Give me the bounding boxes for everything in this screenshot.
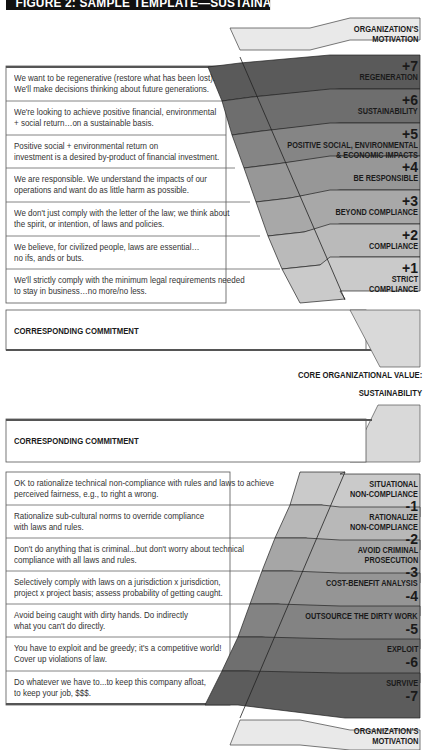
commitment-row-text: Avoid being caught with dirty hands. Do … [14,610,188,631]
commitment-row-text: We are responsible. We understand the im… [14,174,207,195]
bottom-commitment-label: CORRESPONDING COMMITMENT [14,436,139,446]
motivation-level: +3BEYOND COMPLIANCE [322,194,418,218]
level-number: -4 [311,589,418,603]
motivation-level: +7REGENERATION [350,59,418,83]
level-name: NON-COMPLIANCE [350,490,418,500]
level-number: +1 [361,261,418,275]
commitment-row-text: Positive social + environmental return o… [14,141,219,162]
level-number: -7 [381,689,418,703]
core-value: SUSTAINABILITY [358,388,422,398]
level-name: NON-COMPLIANCE [350,523,418,533]
level-name: COST-BENEFIT ANALYSIS [326,579,418,589]
commitment-row-text: We're looking to achieve positive financ… [14,107,216,128]
motivation-level: SURVIVE-7 [381,679,418,703]
commitment-row-text: OK to rationalize technical non-complian… [14,478,274,499]
level-number: -6 [382,655,418,669]
level-number: +6 [348,93,418,107]
level-number: -2 [339,532,418,546]
level-name: COMPLIANCE [369,285,418,295]
commitment-row-text: We want to be regenerative (restore what… [14,73,215,94]
motivation-level: RATIONALIZENON-COMPLIANCE-2 [339,513,418,546]
commitment-row-text: We'll strictly comply with the minimum l… [14,275,245,296]
motivation-level: +1STRICTCOMPLIANCE [361,261,418,294]
motivation-header: ORGANIZATION'S MOTIVATION [353,24,418,44]
level-name: PROSECUTION [358,556,418,566]
motivation-level: AVOID CRIMINALPROSECUTION-3 [348,546,418,579]
core-value-heading: CORE ORGANIZATIONAL VALUE: [298,370,422,380]
level-number: +5 [266,127,418,141]
top-commitment-label: CORRESPONDING COMMITMENT [14,326,139,336]
commitment-row-text: Selectively comply with laws on a jurisd… [14,577,223,598]
motivation-level: COST-BENEFIT ANALYSIS-4 [311,579,418,603]
level-number: +7 [350,59,418,73]
level-number: -1 [339,499,418,513]
level-name: COMPLIANCE [369,242,418,252]
level-name: BE RESPONSIBLE [353,174,418,184]
commitment-row-text: We don't just comply with the letter of … [14,208,230,229]
level-number: +3 [322,194,418,208]
level-name: & ECONOMIC IMPACTS [287,151,418,161]
level-name: EXPLOIT [387,645,418,655]
commitment-row-text: We believe, for civilized people, laws a… [14,242,200,263]
motivation-level: +2COMPLIANCE [361,228,418,252]
level-name: REGENERATION [360,73,418,83]
motivation-level: EXPLOIT-6 [382,645,418,669]
motivation-level: SITUATIONALNON-COMPLIANCE-1 [339,480,418,513]
level-name: OUTSOURCE THE DIRTY WORK [306,612,418,622]
level-name: BEYOND COMPLIANCE [336,208,418,218]
level-number: -5 [287,622,418,636]
commitment-row-text: Do whatever we have to...to keep this co… [14,677,206,698]
commitment-row-text: Rationalize sub-cultural norms to overri… [14,511,204,532]
commitment-row-text: You have to exploit and be greedy; it's … [14,643,221,664]
level-name: SUSTAINABILITY [358,107,418,117]
commitment-row-text: Don't do anything that is criminal...but… [14,544,244,565]
motivation-footer: ORGANIZATION'S MOTIVATION [353,726,418,746]
motivation-level: +4BE RESPONSIBLE [343,160,418,184]
level-number: +2 [361,228,418,242]
level-name: SURVIVE [386,679,418,689]
motivation-level: +6SUSTAINABILITY [348,93,418,117]
motivation-level: +5POSITIVE SOCIAL, ENVIRONMENTAL& ECONOM… [266,127,418,160]
motivation-level: OUTSOURCE THE DIRTY WORK-5 [287,612,418,636]
level-number: +4 [343,160,418,174]
level-number: -3 [348,565,418,579]
